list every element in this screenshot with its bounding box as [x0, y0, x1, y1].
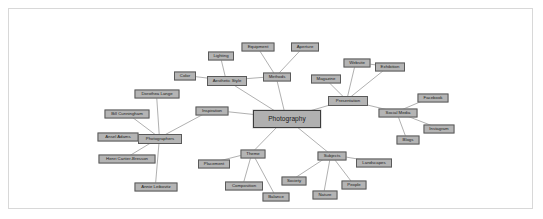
node-label: Henri Cartier-Bresson [106, 157, 148, 162]
node-website[interactable]: Website [344, 59, 371, 68]
node-label: Theme [246, 152, 259, 157]
node-methods[interactable]: Methods [263, 73, 291, 82]
node-color[interactable]: Color [174, 72, 196, 81]
node-label: Bill Cunningham [111, 112, 143, 117]
node-label: Magazine [317, 77, 336, 82]
node-label: Blogs [403, 138, 414, 143]
node-label: Color [180, 74, 190, 79]
node-label: Photographers [146, 137, 174, 142]
node-exhibition[interactable]: Exhibition [375, 63, 405, 72]
node-label: Balance [268, 195, 284, 200]
node-label: Annie Leibovitz [141, 185, 170, 190]
node-facebook[interactable]: Facebook [418, 94, 449, 103]
node-label: Exhibition [381, 65, 400, 70]
node-label: Society [287, 179, 301, 184]
node-ansel_adams[interactable]: Ansel Adams [98, 133, 139, 142]
diagram-frame: PhotographyAesthetic StyleColorLightingM… [8, 8, 533, 209]
node-label: Facebook [423, 96, 442, 101]
node-label: Composition [232, 184, 256, 189]
node-social_media[interactable]: Social Media [379, 109, 418, 118]
node-label: Website [349, 61, 365, 66]
node-label: Nature [318, 193, 331, 198]
node-label: Aesthetic Style [213, 79, 242, 84]
node-inspiration[interactable]: Inspiration [196, 107, 229, 116]
node-people[interactable]: People [342, 181, 367, 190]
node-label: Lighting [213, 54, 228, 59]
node-aperture[interactable]: Aperture [291, 43, 319, 52]
node-bill_cunningham[interactable]: Bill Cunningham [105, 110, 150, 119]
edge-photographers-to-dorothea_lange [156, 93, 159, 138]
node-label: Inspiration [202, 109, 222, 114]
node-label: Equipment [248, 45, 269, 50]
node-annie_leibovitz[interactable]: Annie Leibovitz [135, 183, 178, 192]
edge-photographers-to-annie_leibovitz [155, 138, 159, 186]
mind-map-surface[interactable]: PhotographyAesthetic StyleColorLightingM… [9, 9, 532, 208]
node-dorothea_lange[interactable]: Dorothea Lange [135, 90, 180, 99]
node-presentation[interactable]: Presentation [328, 96, 368, 106]
node-aesthetic_style[interactable]: Aesthetic Style [207, 76, 247, 86]
node-nature[interactable]: Nature [313, 191, 338, 200]
node-label: Ansel Adams [105, 135, 130, 140]
node-equipment[interactable]: Equipment [242, 43, 275, 52]
node-label: Dorothea Lange [141, 92, 172, 97]
node-instagram[interactable]: Instagram [424, 125, 455, 134]
node-label: Placement [204, 162, 224, 167]
node-label: Presentation [336, 99, 360, 104]
node-placement[interactable]: Placement [198, 160, 230, 169]
edge-presentation-to-website [347, 62, 356, 100]
node-label: Aperture [297, 45, 314, 50]
node-label: Social Media [386, 111, 411, 116]
node-label: Instagram [429, 127, 448, 132]
node-lighting[interactable]: Lighting [208, 52, 234, 61]
node-balance[interactable]: Balance [263, 193, 290, 202]
node-landscapes[interactable]: Landscapes [356, 159, 392, 168]
node-composition[interactable]: Composition [225, 182, 263, 191]
node-blogs[interactable]: Blogs [397, 136, 420, 145]
node-subjects[interactable]: Subjects [318, 152, 347, 161]
node-henri_cartier_bresson[interactable]: Henri Cartier-Bresson [99, 155, 156, 164]
node-theme[interactable]: Theme [241, 150, 266, 159]
edge-layer [9, 9, 532, 208]
node-label: Landscapes [362, 161, 385, 166]
node-label: Subjects [324, 154, 341, 159]
node-label: Photography [268, 116, 306, 123]
node-society[interactable]: Society [282, 177, 307, 186]
node-magazine[interactable]: Magazine [311, 75, 341, 84]
central-node-photography[interactable]: Photography [253, 110, 321, 128]
node-label: People [347, 183, 361, 188]
node-photographers[interactable]: Photographers [138, 134, 182, 144]
node-label: Methods [269, 75, 286, 80]
